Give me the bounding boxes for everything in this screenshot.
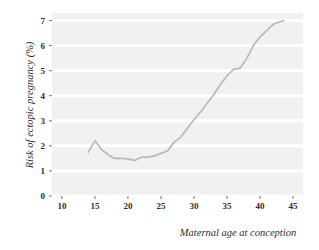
y-tick-label-7: 7 [41, 16, 46, 26]
y-tick-label-0: 0 [41, 191, 46, 201]
x-axis-title: Maternal age at conception [179, 227, 296, 238]
y-tick-label-5: 5 [41, 66, 46, 76]
x-tick-label-25: 25 [156, 201, 166, 211]
y-tick-label-1: 1 [41, 166, 46, 176]
y-tick-label-3: 3 [41, 116, 46, 126]
x-tick-label-40: 40 [256, 201, 266, 211]
y-axis-title: Risk of ectopic pregnancy (%) [24, 41, 36, 169]
ectopic-pregnancy-risk-line-chart: 01234567 1015202530354045 Risk of ectopi… [0, 0, 319, 250]
y-tick-label-6: 6 [41, 41, 46, 51]
x-tick-label-35: 35 [223, 201, 233, 211]
y-tick-label-4: 4 [41, 91, 46, 101]
x-tick-label-10: 10 [57, 201, 67, 211]
y-tick-label-2: 2 [41, 141, 46, 151]
plot-panel-background [52, 13, 303, 196]
chart-figure: 01234567 1015202530354045 Risk of ectopi… [0, 0, 319, 250]
x-tick-label-15: 15 [90, 201, 100, 211]
x-tick-label-20: 20 [123, 201, 133, 211]
x-tick-label-45: 45 [289, 201, 299, 211]
x-tick-label-30: 30 [190, 201, 200, 211]
